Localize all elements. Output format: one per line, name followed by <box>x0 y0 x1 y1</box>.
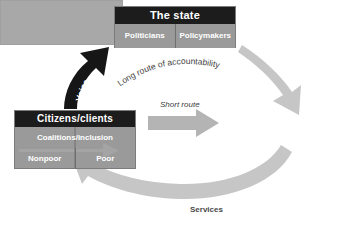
citizens-cell-coalitions: Coalitions/inclusion <box>15 127 135 148</box>
citizens-cell-nonpoor: Nonpoor <box>15 148 75 169</box>
citizens-box: Citizens/clients Coalitions/inclusion No… <box>14 110 136 169</box>
state-cell-politicians: Politicians <box>115 24 175 48</box>
short-route-arrow <box>148 109 219 137</box>
voice-arrow <box>64 47 109 109</box>
services-label: Services <box>190 205 223 214</box>
state-box: The state Politicians Policymakers <box>114 6 236 48</box>
state-cell-policymakers: Policymakers <box>175 24 236 48</box>
short-route-label: Short route <box>160 100 200 109</box>
state-box-title: The state <box>115 7 235 24</box>
citizens-split-row: Nonpoor Poor <box>15 148 135 169</box>
long-route-arrow <box>238 45 301 115</box>
citizens-coalitions-row: Coalitions/inclusion <box>15 127 135 148</box>
state-box-body: Politicians Policymakers <box>115 24 235 48</box>
accountability-diagram: Long route of accountability Voice The s… <box>0 0 359 225</box>
citizens-box-title: Citizens/clients <box>15 111 135 127</box>
citizens-cell-poor: Poor <box>75 148 136 169</box>
long-route-label: Long route of accountability <box>116 56 222 88</box>
